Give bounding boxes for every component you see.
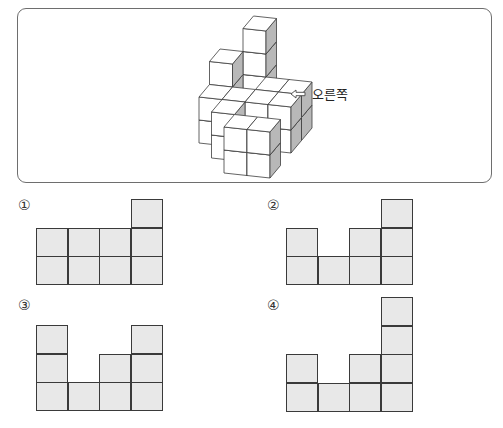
cube-front-face	[243, 29, 266, 55]
view-square	[36, 256, 68, 285]
view-square	[131, 354, 163, 383]
view-square	[131, 256, 163, 285]
view-square	[349, 383, 381, 412]
view-square	[36, 354, 68, 383]
option-4-number[interactable]: ④	[267, 297, 280, 313]
view-square	[131, 228, 163, 257]
cube-front-face	[224, 150, 247, 176]
view-square	[349, 256, 381, 285]
view-square	[68, 382, 100, 411]
view-square	[131, 199, 163, 228]
view-square	[349, 228, 381, 257]
view-square	[381, 297, 413, 326]
view-square	[381, 199, 413, 228]
view-square	[286, 354, 318, 383]
view-square	[349, 354, 381, 383]
view-square	[99, 228, 131, 257]
left-arrow-outline-icon	[290, 89, 306, 99]
cube-stack-figure	[0, 0, 503, 200]
view-square	[286, 256, 318, 285]
view-square	[286, 383, 318, 412]
view-square	[318, 383, 350, 412]
view-direction-label: 오른쪽	[290, 84, 348, 103]
view-square	[36, 382, 68, 411]
direction-text: 오른쪽	[312, 84, 348, 103]
view-square	[68, 256, 100, 285]
cube-front-face	[247, 153, 270, 179]
view-square	[99, 354, 131, 383]
view-square	[131, 325, 163, 354]
view-square	[286, 228, 318, 257]
view-square	[68, 228, 100, 257]
view-square	[131, 382, 163, 411]
view-square	[381, 256, 413, 285]
view-square	[36, 228, 68, 257]
view-square	[99, 256, 131, 285]
view-square	[318, 256, 350, 285]
option-3-number[interactable]: ③	[18, 297, 31, 313]
cube-front-face	[247, 130, 270, 156]
view-square	[36, 325, 68, 354]
view-square	[381, 228, 413, 257]
view-square	[99, 382, 131, 411]
cube-front-face	[243, 52, 266, 78]
view-square	[381, 354, 413, 383]
option-1-number[interactable]: ①	[18, 197, 31, 213]
view-square	[381, 383, 413, 412]
cube-front-face	[210, 62, 233, 88]
view-square	[381, 326, 413, 355]
cube-front-face	[224, 127, 247, 153]
option-2-number[interactable]: ②	[267, 197, 280, 213]
